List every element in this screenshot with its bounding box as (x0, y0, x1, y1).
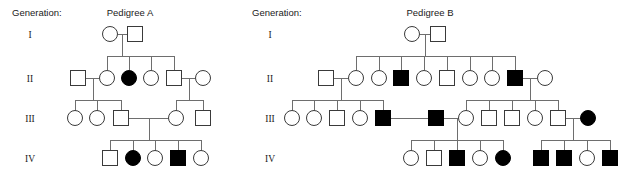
pedigree-individual-male-affected (603, 151, 618, 166)
pedigree-individual-male-affected (534, 151, 549, 166)
pedigree-individual-female-affected (581, 111, 596, 126)
pedigree-individual-male-unaffected (114, 111, 129, 126)
pedigree-individual-male-affected (171, 151, 186, 166)
pedigree-individual-female-unaffected (463, 71, 478, 86)
generation-axis-heading: Generation: (252, 7, 302, 18)
pedigree-individual-female-unaffected (528, 111, 543, 126)
generation-label-iii: III (25, 114, 35, 124)
pedigree-individual-female-unaffected (405, 27, 420, 42)
lines-layer (75, 34, 610, 151)
generation-label-iv: IV (265, 154, 275, 164)
pedigree-individual-female-unaffected (196, 71, 211, 86)
pedigree-individual-male-unaffected (551, 111, 566, 126)
pedigree-individual-female-unaffected (148, 151, 163, 166)
pedigree-individual-male-unaffected (71, 71, 86, 86)
pedigree-individual-female-unaffected (538, 71, 553, 86)
pedigree-figure: Generation:Pedigree AIIIIIIIVGeneration:… (0, 0, 629, 186)
pedigree-individual-female-unaffected (68, 111, 83, 126)
pedigree-individual-male-unaffected (482, 111, 497, 126)
pedigree-individual-female-affected (126, 151, 141, 166)
pedigree-individual-female-unaffected (144, 71, 159, 86)
pedigree-individual-female-unaffected (580, 151, 595, 166)
pedigree-individual-male-affected (394, 71, 409, 86)
pedigree-individual-female-unaffected (459, 111, 474, 126)
pedigree-individual-male-unaffected (505, 111, 520, 126)
pedigree-individual-female-unaffected (372, 71, 387, 86)
pedigree-individual-female-unaffected (353, 111, 368, 126)
pedigree-individual-female-unaffected (194, 151, 209, 166)
pedigree-individual-female-unaffected (169, 111, 184, 126)
pedigree-individual-male-unaffected (330, 111, 345, 126)
nodes-layer (68, 27, 618, 166)
pedigree-individual-male-affected (376, 111, 391, 126)
pedigree-individual-female-unaffected (404, 151, 419, 166)
pedigree-individual-male-unaffected (128, 27, 143, 42)
pedigree-individual-male-affected (450, 151, 465, 166)
pedigree-individual-female-unaffected (307, 111, 322, 126)
pedigree-individual-female-unaffected (90, 111, 105, 126)
generation-label-ii: II (267, 74, 273, 84)
pedigree-individual-male-affected (508, 71, 523, 86)
generation-label-i: I (268, 30, 271, 40)
pedigree-individual-male-affected (557, 151, 572, 166)
pedigree-individual-male-unaffected (103, 151, 118, 166)
pedigree-individual-female-unaffected (417, 71, 432, 86)
pedigree-canvas: Generation:Pedigree AIIIIIIIVGeneration:… (0, 0, 629, 186)
pedigree-individual-female-unaffected (103, 27, 118, 42)
generation-label-iii: III (265, 114, 275, 124)
pedigree-individual-male-unaffected (319, 71, 334, 86)
pedigree-individual-female-unaffected (473, 151, 488, 166)
pedigree-individual-male-affected (429, 111, 444, 126)
pedigree-individual-male-unaffected (196, 111, 211, 126)
pedigree-individual-male-unaffected (167, 71, 182, 86)
pedigree-individual-female-unaffected (349, 71, 364, 86)
pedigree-title-b: Pedigree B (406, 7, 453, 18)
generation-label-ii: II (27, 74, 33, 84)
pedigree-individual-female-affected (496, 151, 511, 166)
pedigree-individual-female-unaffected (485, 71, 500, 86)
generation-label-i: I (28, 30, 31, 40)
pedigree-individual-male-unaffected (431, 27, 446, 42)
pedigree-individual-male-unaffected (427, 151, 442, 166)
pedigree-individual-female-unaffected (100, 71, 115, 86)
generation-axis-heading: Generation: (12, 7, 62, 18)
generation-label-iv: IV (25, 154, 35, 164)
pedigree-individual-female-affected (122, 71, 137, 86)
pedigree-individual-male-unaffected (440, 71, 455, 86)
pedigree-title-a: Pedigree A (107, 7, 154, 18)
pedigree-individual-female-unaffected (285, 111, 300, 126)
